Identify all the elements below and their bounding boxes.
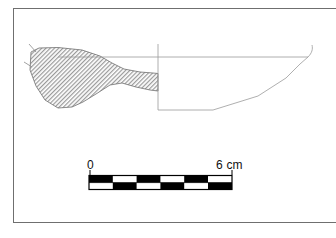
scale-bar-ticks: [90, 170, 232, 175]
scale-bar: [0, 0, 336, 238]
scale-seg-bottom-4: [160, 183, 184, 190]
scale-bar-label-zero: 0: [87, 159, 94, 171]
scale-seg-bottom-6: [208, 183, 232, 190]
scale-seg-top-1: [89, 176, 113, 183]
scale-seg-top-5: [184, 176, 208, 183]
figure-root: 0 6 cm: [0, 0, 336, 238]
scale-seg-bottom-2: [113, 183, 137, 190]
scale-bar-blocks: [89, 176, 232, 190]
scale-bar-label-max: 6 cm: [216, 159, 243, 171]
scale-seg-top-3: [137, 176, 161, 183]
